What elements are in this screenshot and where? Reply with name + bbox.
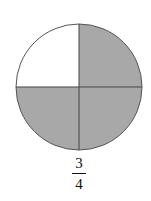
numerator: 3 [69,156,89,171]
denominator: 4 [69,177,89,192]
shaded-quadrant-top-right [79,24,142,87]
fraction-bar [72,173,86,174]
shaded-quadrant-bottom-right [79,87,142,150]
unshaded-quadrant-top-left [16,24,79,87]
shaded-quadrant-bottom-left [16,87,79,150]
fraction-label: 3 4 [69,156,89,192]
